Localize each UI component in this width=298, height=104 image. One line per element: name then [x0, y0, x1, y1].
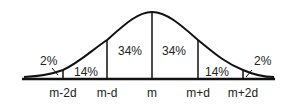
tick-label-m-2d: m-2d — [49, 86, 76, 100]
region-label-left-tail: 2% — [40, 54, 58, 68]
region-label-14-left: 14% — [74, 65, 98, 79]
tick-label-m-d: m-d — [97, 86, 118, 100]
bell-curve — [24, 12, 274, 77]
region-label-34-right: 34% — [162, 44, 186, 58]
tick-label-m+2d: m+2d — [228, 86, 258, 100]
normal-distribution-diagram: 2% 14% 34% 34% 14% 2% m-2d m-d m m+d m+2… — [0, 0, 298, 104]
tick-label-m+d: m+d — [186, 86, 210, 100]
region-label-14-right: 14% — [205, 65, 229, 79]
region-label-34-left: 34% — [118, 44, 142, 58]
tick-label-m: m — [147, 86, 157, 100]
region-label-right-tail: 2% — [254, 54, 272, 68]
